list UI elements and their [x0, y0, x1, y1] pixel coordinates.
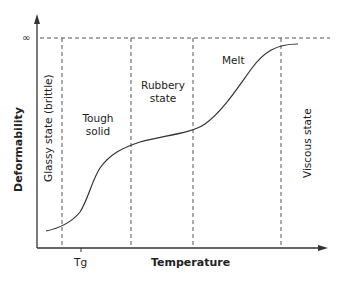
y-axis-arrow-icon [34, 14, 40, 24]
rubbery-line2: state [138, 92, 188, 105]
x-axis-arrow-icon [318, 245, 328, 251]
region-label-melt: Melt [222, 54, 245, 67]
tough-line2: solid [78, 125, 118, 138]
x-axis-label: Temperature [151, 256, 230, 269]
infinity-marker: ∞ [22, 31, 30, 44]
tg-label: Tg [74, 256, 87, 269]
region-label-rubbery-state: Rubbery state [138, 79, 188, 105]
tough-line1: Tough [78, 112, 118, 125]
region-label-tough-solid: Tough solid [78, 112, 118, 138]
region-label-viscous: Viscous state [301, 108, 313, 178]
y-axis-label: Deformability [12, 107, 25, 192]
rubbery-line1: Rubbery [138, 79, 188, 92]
region-label-glassy: Glassy state (brittle) [42, 74, 54, 182]
